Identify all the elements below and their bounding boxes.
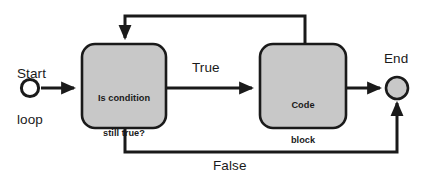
flowchart-diagram: Start loop Is condition still true? True… (0, 0, 434, 183)
node-end-circle[interactable] (386, 77, 408, 99)
decision-node-label: Is condition still true? (82, 70, 166, 162)
edge-process-loopback-to-decision (125, 16, 305, 44)
true-branch-label: True (192, 60, 220, 75)
start-loop-label-line1: Start (17, 66, 46, 81)
end-node-label: End (384, 51, 408, 66)
process-node-label: Code block (260, 77, 346, 169)
node-layer (21, 44, 408, 128)
process-node-label-line1: Code (260, 100, 346, 112)
decision-node-label-line2: still true? (82, 128, 166, 140)
process-node-label-line2: block (260, 135, 346, 147)
false-branch-label: False (213, 158, 247, 173)
start-loop-label: Start loop (17, 36, 46, 157)
decision-node-label-line1: Is condition (82, 93, 166, 105)
start-loop-label-line2: loop (17, 112, 46, 127)
flowchart-canvas (0, 0, 434, 183)
